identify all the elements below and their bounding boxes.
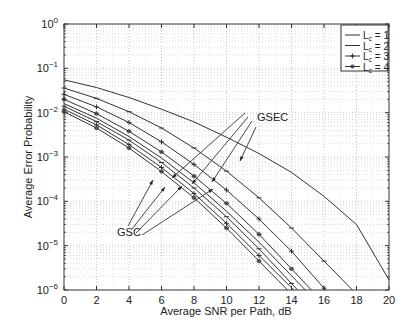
curve-gsc-l-c-1 — [64, 104, 305, 290]
x-tick-label: 20 — [383, 294, 395, 306]
y-axis-label: Average Error Probability — [22, 95, 34, 218]
y-tick-label: 10−6 — [37, 282, 59, 296]
y-tick-label: 10−1 — [37, 60, 59, 74]
x-tick-label: 4 — [126, 294, 132, 306]
y-tick-label: 10−2 — [37, 105, 59, 119]
x-tick-label: 16 — [318, 294, 330, 306]
legend-label: Lc = 4 — [363, 62, 389, 74]
curve-gsc-l-c-2 — [62, 106, 298, 290]
error-probability-chart: 0246810121416182010−610−510−410−310−210−… — [0, 0, 412, 334]
y-tick-label: 100 — [41, 16, 58, 30]
gsc-label: GSC — [117, 226, 141, 238]
x-axis-label: Average SNR per Path, dB — [160, 305, 291, 317]
y-tick-label: 10−5 — [37, 238, 59, 252]
y-tick-label: 10−3 — [37, 149, 59, 163]
x-tick-label: 2 — [93, 294, 99, 306]
x-tick-label: 0 — [61, 294, 67, 306]
grid-lines — [64, 24, 389, 290]
data-curves — [62, 80, 390, 291]
y-tick-label: 10−4 — [37, 193, 59, 207]
x-tick-label: 18 — [350, 294, 362, 306]
legend: Lc = 1Lc = 2Lc = 3Lc = 4 — [341, 25, 389, 74]
gsec-label: GSEC — [257, 111, 288, 123]
